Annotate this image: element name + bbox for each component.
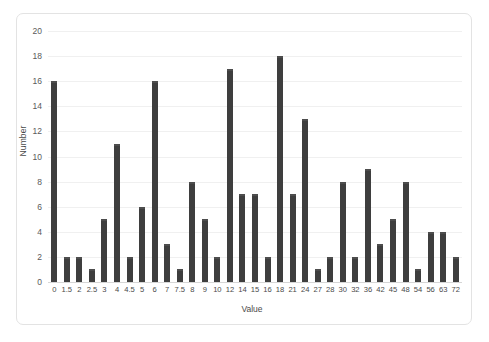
x-axis-tick-label: 4: [115, 285, 119, 294]
gridline: [48, 106, 462, 107]
bar-cap: [327, 257, 333, 259]
bar: [440, 232, 446, 282]
bar: [453, 257, 459, 282]
x-axis-tick-label: 36: [364, 285, 372, 294]
x-axis-tick-label: 18: [276, 285, 284, 294]
x-axis-tick-label: 3: [102, 285, 106, 294]
bar: [265, 257, 271, 282]
bar-cap: [127, 257, 133, 259]
x-axis-tick-label: 48: [401, 285, 409, 294]
bar: [214, 257, 220, 282]
bar-cap: [265, 257, 271, 259]
bar: [377, 244, 383, 282]
y-axis-tick-label: 14: [16, 101, 42, 111]
bar: [227, 69, 233, 282]
x-axis-tick-label: 24: [301, 285, 309, 294]
bar-cap: [152, 81, 158, 83]
x-axis-tick-label: 14: [238, 285, 246, 294]
bar-cap: [239, 194, 245, 196]
y-axis-tick-labels: 02468101214161820: [14, 31, 42, 282]
gridline: [48, 31, 462, 32]
y-axis-tick-label: 20: [16, 26, 42, 36]
bar-cap: [202, 219, 208, 221]
x-axis-tick-label: 42: [376, 285, 384, 294]
gridline: [48, 182, 462, 183]
x-axis-tick-label: 0: [52, 285, 56, 294]
bar-cap: [277, 56, 283, 58]
x-axis-tick-label: 15: [251, 285, 259, 294]
bar-cap: [440, 232, 446, 234]
bar-cap: [252, 194, 258, 196]
x-axis-tick-label: 27: [313, 285, 321, 294]
bar-cap: [51, 81, 57, 83]
y-axis-tick-label: 16: [16, 76, 42, 86]
bar-chart: Number 02468101214161820 01.522.5344.556…: [0, 0, 489, 342]
bar-cap: [415, 269, 421, 271]
bar-cap: [76, 257, 82, 259]
bar-cap: [89, 269, 95, 271]
bar: [340, 182, 346, 282]
y-axis-tick-label: 4: [16, 227, 42, 237]
bar-cap: [428, 232, 434, 234]
bar-cap: [189, 182, 195, 184]
bar: [177, 269, 183, 282]
bar-cap: [340, 182, 346, 184]
x-axis-tick-label: 8: [190, 285, 194, 294]
x-axis-tick-label: 30: [339, 285, 347, 294]
plot-area: [48, 31, 462, 282]
y-axis-tick-label: 12: [16, 126, 42, 136]
bar-cap: [390, 219, 396, 221]
bar-cap: [365, 169, 371, 171]
x-axis-tick-label: 45: [389, 285, 397, 294]
x-axis-tick-label: 32: [351, 285, 359, 294]
x-axis-tick-label: 6: [153, 285, 157, 294]
bar-cap: [64, 257, 70, 259]
bar: [352, 257, 358, 282]
x-axis-tick-label: 54: [414, 285, 422, 294]
x-axis-line: [48, 282, 462, 283]
bar: [76, 257, 82, 282]
bar-cap: [164, 244, 170, 246]
bar-cap: [315, 269, 321, 271]
bar-cap: [403, 182, 409, 184]
bar: [315, 269, 321, 282]
bar: [202, 219, 208, 282]
x-axis-tick-label: 7.5: [174, 285, 185, 294]
bar: [239, 194, 245, 282]
x-axis-tick-label: 56: [426, 285, 434, 294]
x-axis-tick-label: 2: [77, 285, 81, 294]
x-axis-tick-label: 5: [140, 285, 144, 294]
bar-cap: [214, 257, 220, 259]
x-axis-tick-labels: 01.522.5344.55677.5891012141516182124272…: [48, 285, 462, 299]
bar: [252, 194, 258, 282]
bar: [127, 257, 133, 282]
y-axis-tick-label: 10: [16, 152, 42, 162]
y-axis-tick-label: 6: [16, 202, 42, 212]
gridline: [48, 81, 462, 82]
bar: [327, 257, 333, 282]
bar: [277, 56, 283, 282]
bar: [189, 182, 195, 282]
bar-cap: [453, 257, 459, 259]
x-axis-tick-label: 1.5: [62, 285, 73, 294]
gridline: [48, 157, 462, 158]
y-axis-tick-label: 18: [16, 51, 42, 61]
bar-cap: [377, 244, 383, 246]
x-axis-tick-label: 21: [288, 285, 296, 294]
gridline: [48, 56, 462, 57]
bar: [51, 81, 57, 282]
bar: [101, 219, 107, 282]
gridline: [48, 131, 462, 132]
bar: [164, 244, 170, 282]
y-axis-tick-label: 8: [16, 177, 42, 187]
x-axis-tick-label: 10: [213, 285, 221, 294]
x-axis-tick-label: 72: [451, 285, 459, 294]
bar-cap: [177, 269, 183, 271]
x-axis-tick-label: 9: [203, 285, 207, 294]
x-axis-tick-label: 16: [263, 285, 271, 294]
x-axis-tick-label: 2.5: [87, 285, 98, 294]
x-axis-title: Value: [40, 304, 464, 314]
x-axis-tick-label: 4.5: [124, 285, 135, 294]
bar: [89, 269, 95, 282]
bar-cap: [227, 69, 233, 71]
